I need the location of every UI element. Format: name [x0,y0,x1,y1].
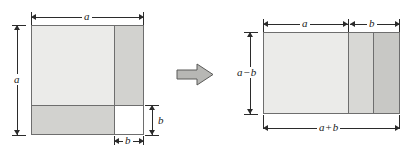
right-region-panel-3 [373,32,400,114]
right-figure-rectangle [263,32,400,114]
right-side-label-operator: − [243,66,251,78]
left-corner-ext-bottom [145,135,159,136]
left-side-ext-bottom [12,135,26,136]
right-bottom-label-operator: + [325,121,333,133]
right-bottom-label-a-plus-b: a+b [317,122,340,133]
left-side-label-a: a [12,74,22,85]
right-bottom-label-b: b [333,121,339,133]
right-top-label-a: a [300,18,310,29]
left-corner-width-label-b: b [123,135,133,146]
geometry-figure: a a b b a b a−b a+b [0,0,417,148]
left-region-bottom-strip [31,105,115,135]
left-region-top-left [31,25,115,106]
right-bottom-label-a: a [319,121,325,133]
right-side-label-b: b [251,66,257,78]
left-region-right-strip [114,25,144,106]
right-top-ext-mid [348,19,349,32]
rightwards-arrow-icon [176,62,214,87]
right-top-label-b: b [367,18,377,29]
right-side-label-a-minus-b: a−b [235,67,258,78]
left-corner-label-b: b [156,115,166,126]
left-corner-height-dimension-line [152,105,153,135]
left-figure-square [31,25,144,135]
right-side-ext-bottom [244,114,258,115]
right-side-label-a: a [237,66,243,78]
left-top-label-a: a [82,11,92,22]
right-region-panel-1 [263,32,349,114]
right-region-panel-2 [348,32,374,114]
left-region-corner-square [114,105,144,135]
